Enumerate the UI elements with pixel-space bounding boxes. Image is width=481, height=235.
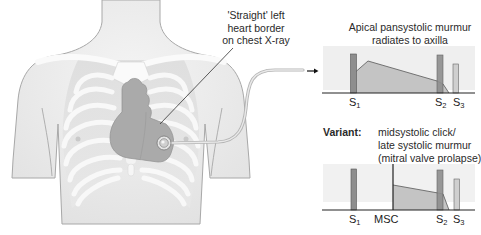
bottom-s3-bar — [454, 179, 460, 210]
arrow-right-icon — [307, 69, 319, 74]
bottom-s1-label: S1 — [349, 213, 361, 227]
top-title-line-1: Apical pansystolic murmur — [340, 21, 480, 34]
bottom-msc-label: MSC — [374, 213, 398, 225]
nipple-left — [184, 137, 189, 142]
variant-desc-line-2: late systolic murmur — [378, 139, 481, 152]
bottom-phonocardiogram — [322, 164, 475, 210]
callout-line-2: heart border — [206, 22, 306, 35]
bottom-s3-label: S3 — [453, 213, 465, 227]
variant-desc-line-3: (mitral valve prolapse) — [378, 152, 481, 165]
top-s2-bar — [437, 55, 443, 93]
nipple-right — [76, 137, 81, 142]
bottom-s1-bar — [351, 169, 357, 210]
top-panel-title: Apical pansystolic murmur radiates to ax… — [340, 21, 480, 47]
top-s3-label: S3 — [453, 96, 465, 110]
callout-line-3: on chest X-ray — [206, 34, 306, 47]
top-phonocardiogram — [322, 46, 475, 93]
bottom-s2-bar — [437, 170, 443, 210]
variant-description: midsystolic click/ late systolic murmur … — [378, 126, 481, 165]
top-title-line-2: radiates to axilla — [340, 34, 480, 47]
variant-desc-line-1: midsystolic click/ — [378, 126, 481, 139]
variant-label: Variant: — [323, 126, 362, 138]
top-s1-bar — [351, 54, 357, 93]
top-s2-label: S2 — [435, 96, 447, 110]
bottom-s2-label: S2 — [436, 213, 448, 227]
top-s3-bar — [453, 64, 459, 93]
top-s1-label: S1 — [349, 96, 361, 110]
callout-line-1: 'Straight' left — [206, 9, 306, 22]
callout-text: 'Straight' left heart border on chest X-… — [206, 9, 306, 47]
